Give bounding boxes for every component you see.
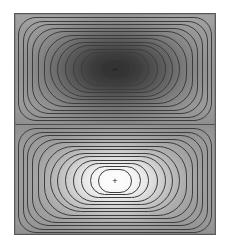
plot-frame: − + <box>14 13 216 235</box>
extremum-marker-positive: + <box>112 176 117 185</box>
panel-negative-lobe: − <box>15 14 215 124</box>
extremum-marker-negative: − <box>112 65 117 74</box>
contour-plot-figure: − + <box>0 0 230 248</box>
panel-positive-lobe: + <box>15 125 215 235</box>
